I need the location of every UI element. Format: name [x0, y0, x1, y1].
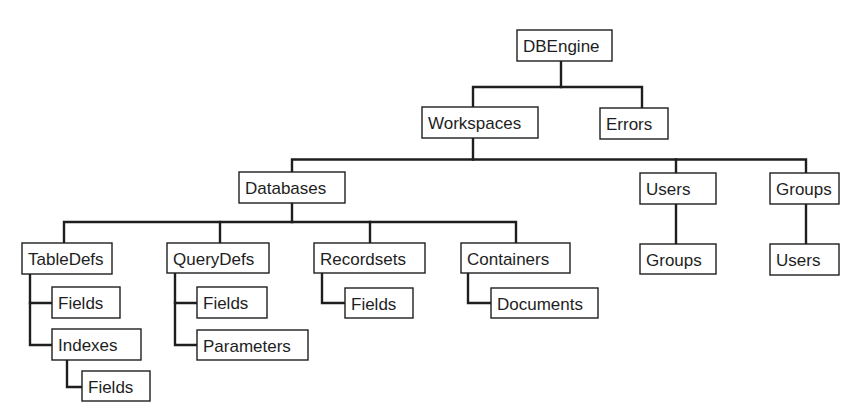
- node-label: Users: [646, 180, 690, 199]
- connector-databases-to-recordsets: [292, 222, 370, 243]
- connector-workspaces-to-users: [473, 160, 676, 174]
- node-label: Recordsets: [320, 250, 406, 269]
- node-parameters: Parameters: [197, 330, 308, 360]
- node-label: Fields: [351, 295, 396, 314]
- node-recordsets-fields: Fields: [345, 288, 413, 318]
- node-documents: Documents: [491, 288, 598, 318]
- connector-databases-to-containers: [370, 222, 516, 243]
- connector-lines: [30, 61, 806, 387]
- node-label: Fields: [203, 294, 248, 313]
- node-boxes: DBEngineWorkspacesErrorsDatabasesUsersGr…: [22, 30, 839, 401]
- node-label: Errors: [606, 115, 652, 134]
- node-indexes-fields: Fields: [82, 371, 150, 401]
- node-errors: Errors: [600, 108, 668, 139]
- node-databases: Databases: [239, 172, 345, 203]
- node-groups: Groups: [770, 173, 839, 204]
- connector-tabledefs-to-indexes: [30, 303, 52, 345]
- node-label: TableDefs: [28, 250, 104, 269]
- node-workspaces: Workspaces: [422, 107, 538, 138]
- node-indexes: Indexes: [52, 329, 141, 360]
- node-label: Containers: [467, 250, 549, 269]
- node-recordsets: Recordsets: [314, 243, 425, 273]
- node-label: Parameters: [203, 337, 291, 356]
- node-label: Workspaces: [428, 114, 521, 133]
- node-label: Groups: [646, 251, 702, 270]
- node-tabledefs: TableDefs: [22, 243, 112, 274]
- node-tabledefs-fields: Fields: [52, 287, 120, 318]
- node-label: Documents: [497, 295, 583, 314]
- connector-recordsets-to-recordsets_fields: [322, 273, 345, 303]
- node-label: Groups: [776, 180, 832, 199]
- node-users: Users: [640, 173, 716, 204]
- node-label: Users: [776, 251, 820, 270]
- node-users-groups: Groups: [640, 244, 716, 274]
- node-label: Fields: [58, 294, 103, 313]
- node-containers: Containers: [461, 243, 570, 273]
- connector-querydefs-to-querydefs_fields: [175, 273, 197, 303]
- connector-tabledefs-to-tabledefs_fields: [30, 274, 52, 303]
- object-hierarchy-diagram: DBEngineWorkspacesErrorsDatabasesUsersGr…: [0, 0, 855, 413]
- connector-indexes-to-indexes_fields: [67, 360, 82, 387]
- connector-workspaces-to-databases: [292, 138, 473, 172]
- connector-workspaces-to-groups: [676, 160, 806, 174]
- connector-querydefs-to-parameters: [175, 303, 197, 345]
- node-querydefs: QueryDefs: [167, 243, 269, 273]
- connector-databases-to-tabledefs: [64, 203, 292, 243]
- node-label: DBEngine: [523, 37, 600, 56]
- node-groups-users: Users: [770, 244, 839, 275]
- connector-dbengine-to-errors: [561, 87, 642, 108]
- node-querydefs-fields: Fields: [197, 287, 267, 318]
- node-label: Databases: [245, 179, 326, 198]
- connector-containers-to-documents: [468, 273, 491, 303]
- node-label: Indexes: [58, 336, 118, 355]
- node-label: QueryDefs: [173, 250, 254, 269]
- connector-dbengine-to-workspaces: [473, 61, 561, 107]
- node-dbengine: DBEngine: [517, 30, 612, 61]
- node-label: Fields: [88, 378, 133, 397]
